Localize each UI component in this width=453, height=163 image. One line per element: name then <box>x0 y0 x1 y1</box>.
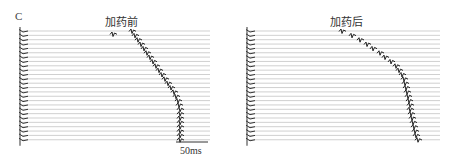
raster-traces-figure <box>0 0 453 163</box>
action-potential-spike <box>110 32 117 37</box>
scale-bar-label: 50ms <box>180 145 202 156</box>
